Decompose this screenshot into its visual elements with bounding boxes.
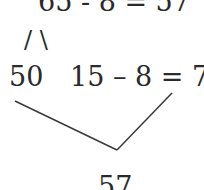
result-value: 57 [98, 173, 132, 190]
joining-lines [0, 0, 204, 190]
right-connector-line [117, 93, 172, 150]
left-connector-line [15, 101, 117, 150]
